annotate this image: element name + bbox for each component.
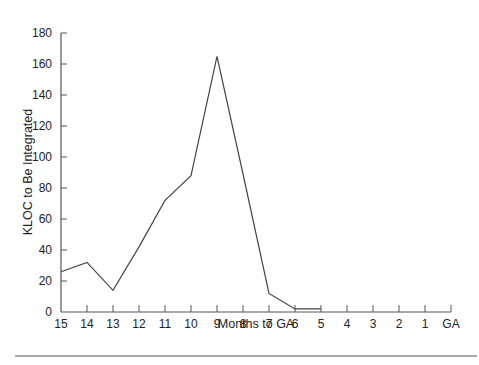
y-tick-label: 140 <box>32 88 52 102</box>
x-tick-label: 15 <box>54 317 68 331</box>
y-tick-label: 180 <box>32 26 52 40</box>
line-chart: 020406080100120140160180 151413121110987… <box>0 0 479 365</box>
y-tick-label: 120 <box>32 119 52 133</box>
y-tick-label: 0 <box>45 305 52 319</box>
x-tick-label: 14 <box>80 317 94 331</box>
data-line <box>61 56 321 309</box>
y-tick-label: 20 <box>39 274 53 288</box>
x-tick-label: 10 <box>184 317 198 331</box>
x-tick-label: GA <box>442 317 459 331</box>
x-axis-title: Months to GA <box>218 317 295 331</box>
y-tick-label: 100 <box>32 150 52 164</box>
y-axis: 020406080100120140160180 <box>32 26 67 319</box>
x-tick-label: 1 <box>422 317 429 331</box>
x-tick-label: 5 <box>318 317 325 331</box>
y-tick-label: 40 <box>39 243 53 257</box>
x-tick-label: 2 <box>396 317 403 331</box>
y-tick-label: 160 <box>32 57 52 71</box>
x-tick-label: 4 <box>344 317 351 331</box>
y-tick-label: 60 <box>39 212 53 226</box>
y-tick-label: 80 <box>39 181 53 195</box>
x-tick-label: 12 <box>132 317 146 331</box>
series-line <box>61 56 321 309</box>
x-tick-label: 3 <box>370 317 377 331</box>
y-axis-title: KLOC to Be Integrated <box>21 109 35 236</box>
x-tick-label: 13 <box>106 317 120 331</box>
x-tick-label: 11 <box>159 317 172 331</box>
